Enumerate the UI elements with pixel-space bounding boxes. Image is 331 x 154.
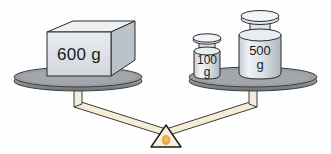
balance-scale-diagram: 600 g 100 g	[0, 0, 331, 154]
scale-illustration: 600 g 100 g	[0, 0, 331, 154]
block-600g: 600 g	[47, 21, 135, 76]
weight-500g-label-value: 500	[249, 43, 271, 58]
weight-500g-knob-top	[241, 11, 279, 22]
weight-100g-label-unit: g	[204, 65, 211, 79]
block-600g-label: 600 g	[57, 45, 101, 64]
weight-500g-body-top	[239, 29, 281, 41]
weight-500g: 500 g	[239, 11, 281, 80]
fulcrum-center-dot	[162, 135, 170, 145]
weight-500g-label-unit: g	[256, 57, 263, 72]
beam-right-arm	[166, 101, 257, 136]
beam-left-arm	[74, 101, 166, 136]
weight-100g: 100 g	[193, 34, 221, 79]
weight-100g-knob-top	[193, 34, 221, 42]
